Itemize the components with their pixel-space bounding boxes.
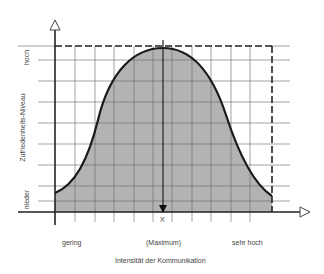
bell-curve-chart — [0, 0, 324, 274]
x-axis-arrow-icon — [300, 207, 310, 217]
y-axis-arrow-icon — [50, 20, 60, 30]
x-high-label: sehr hoch — [232, 239, 263, 246]
x-low-label: gering — [62, 239, 81, 246]
y-high-label: hoch — [23, 50, 30, 65]
y-low-label: nieder — [23, 190, 30, 209]
x-axis-title: Intensität der Kommunikation — [115, 257, 206, 264]
y-axis-title: Zufriedenheits-Niveau — [19, 93, 26, 161]
x-max-label: (Maximum) — [146, 239, 181, 246]
max-marker-label: X — [160, 216, 165, 223]
